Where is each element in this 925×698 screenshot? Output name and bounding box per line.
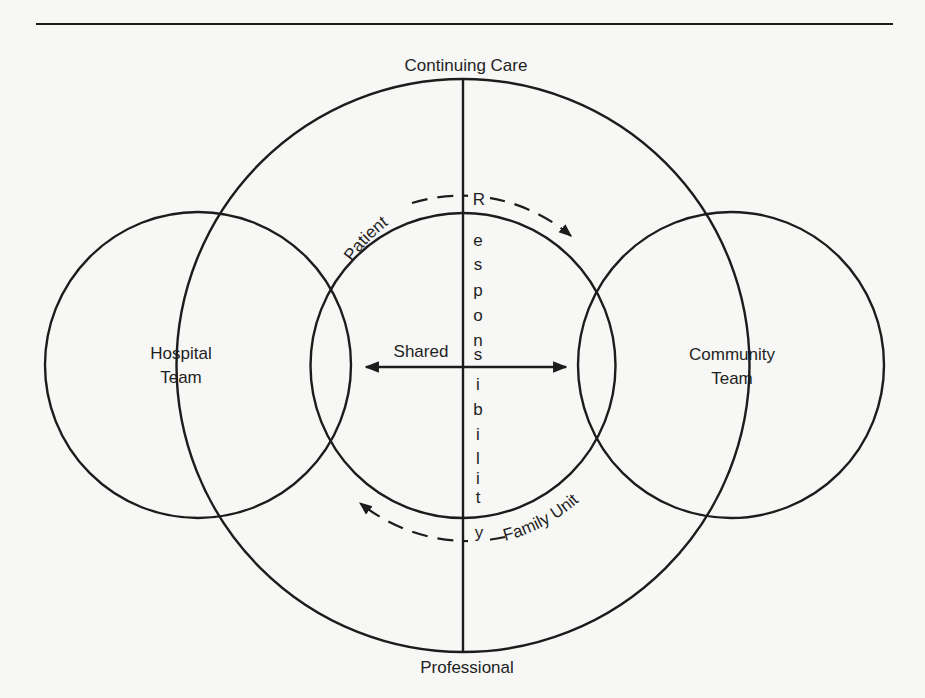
hospital-label-line2: Team — [160, 368, 202, 387]
responsibility-letter: l — [476, 449, 480, 468]
patient-label-path: Patient — [340, 212, 392, 264]
community-team-circle — [578, 212, 884, 518]
family-unit-label: Family Unit — [501, 490, 582, 545]
diagram-canvas: Continuing Care Professional Hospital Te… — [0, 0, 925, 698]
hospital-label-line1: Hospital — [150, 344, 211, 363]
responsibility-letter: s — [474, 255, 483, 274]
responsibility-letter: e — [473, 231, 482, 250]
responsibility-letter: t — [476, 488, 481, 507]
shared-label: Shared — [394, 342, 449, 361]
responsibility-letter: i — [476, 375, 480, 394]
continuing-care-label: Continuing Care — [405, 56, 528, 75]
patient-label: Patient — [340, 212, 392, 264]
professional-label: Professional — [420, 658, 514, 677]
responsibility-letter: i — [476, 469, 480, 488]
community-label-line1: Community — [689, 345, 775, 364]
responsibility-letter: o — [473, 306, 482, 325]
care-model-diagram: Continuing Care Professional Hospital Te… — [0, 0, 925, 698]
family-unit-label-path: Family Unit — [501, 490, 582, 545]
responsibility-letter: b — [473, 400, 482, 419]
responsibility-letter: y — [475, 523, 484, 542]
responsibility-letter-s2: s — [474, 345, 483, 364]
responsibility-letter: R — [473, 190, 485, 209]
responsibility-letter: i — [476, 425, 480, 444]
responsibility-letter: p — [473, 281, 482, 300]
community-label-line2: Team — [711, 369, 753, 388]
